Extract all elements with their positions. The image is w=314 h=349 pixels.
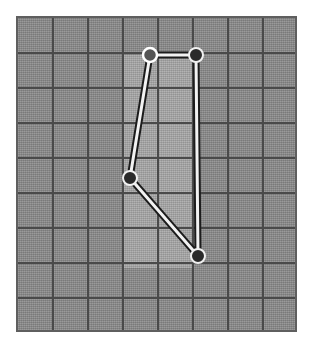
grid-canvas[interactable] xyxy=(16,16,297,332)
vertex-marker-n1[interactable] xyxy=(143,48,157,62)
vertex-marker-n3[interactable] xyxy=(123,171,137,185)
vertex-marker-n4[interactable] xyxy=(191,249,205,263)
vector-overlay xyxy=(18,18,295,330)
polyline-path[interactable] xyxy=(130,55,198,256)
path-outline xyxy=(130,55,198,256)
screenshot-root xyxy=(0,0,314,349)
vertex-marker-n2[interactable] xyxy=(189,48,203,62)
gridlines xyxy=(18,18,295,330)
path-core[interactable] xyxy=(130,55,198,256)
